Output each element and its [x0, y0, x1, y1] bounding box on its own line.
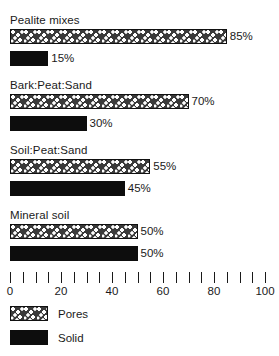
bar-row: 55%	[0, 159, 279, 175]
axis-tick	[125, 272, 126, 283]
bar-row: 50%	[0, 224, 279, 240]
bar-group: Pealite mixes85%15%	[0, 14, 279, 70]
bar-pores	[10, 94, 189, 109]
bar-solid	[10, 246, 138, 261]
axis-tick	[252, 272, 253, 283]
group-label: Soil:Peat:Sand	[10, 144, 87, 157]
bar-row: 50%	[0, 246, 279, 262]
bar-solid	[10, 181, 125, 196]
legend-label: Solid	[58, 329, 84, 347]
bar-row: 85%	[0, 29, 279, 45]
axis-tick	[265, 272, 266, 283]
x-axis: 020406080100	[0, 272, 279, 302]
axis-tick-label: 100	[255, 285, 274, 298]
bar-value-label: 85%	[230, 28, 253, 44]
bar-value-label: 55%	[153, 158, 176, 174]
bar-group: Bark:Peat:Sand70%30%	[0, 79, 279, 135]
bar-value-label: 45%	[128, 180, 151, 196]
bar-pores	[10, 224, 138, 239]
axis-tick	[214, 272, 215, 283]
axis-tick-label: 20	[55, 285, 68, 298]
bar-solid	[10, 51, 48, 66]
axis-tick	[74, 272, 75, 283]
bar-solid	[10, 116, 87, 131]
axis-tick	[150, 272, 151, 283]
axis-tick	[48, 272, 49, 283]
legend-label: Pores	[58, 305, 88, 323]
bar-value-label: 15%	[51, 50, 74, 66]
bar-value-label: 50%	[141, 223, 164, 239]
bar-group: Soil:Peat:Sand55%45%	[0, 144, 279, 200]
axis-tick	[61, 272, 62, 283]
chart-legend: PoresSolid	[0, 305, 279, 355]
axis-tick	[176, 272, 177, 283]
legend-swatch-pores	[10, 306, 48, 321]
bar-value-label: 50%	[141, 245, 164, 261]
bar-row: 30%	[0, 116, 279, 132]
axis-tick	[23, 272, 24, 283]
axis-tick	[240, 272, 241, 283]
group-label: Pealite mixes	[10, 14, 80, 27]
bar-value-label: 70%	[192, 93, 215, 109]
group-label: Bark:Peat:Sand	[10, 79, 92, 92]
axis-tick	[112, 272, 113, 283]
axis-tick	[189, 272, 190, 283]
axis-tick	[201, 272, 202, 283]
bar-group: Mineral soil50%50%	[0, 209, 279, 265]
bar-row: 70%	[0, 94, 279, 110]
bar-row: 15%	[0, 51, 279, 67]
axis-tick-label: 40	[106, 285, 119, 298]
axis-tick	[227, 272, 228, 283]
legend-swatch-solid	[10, 330, 48, 345]
axis-tick	[10, 272, 11, 283]
bar-pores	[10, 29, 227, 44]
axis-tick-label: 60	[157, 285, 170, 298]
porosity-bar-chart: Pealite mixes85%15%Bark:Peat:Sand70%30%S…	[0, 0, 279, 356]
axis-tick	[163, 272, 164, 283]
axis-tick-label: 80	[208, 285, 221, 298]
group-label: Mineral soil	[10, 209, 69, 222]
bar-value-label: 30%	[90, 115, 113, 131]
bar-pores	[10, 159, 150, 174]
axis-tick-label: 0	[7, 285, 13, 298]
axis-tick	[138, 272, 139, 283]
bar-row: 45%	[0, 181, 279, 197]
axis-tick	[99, 272, 100, 283]
axis-tick	[36, 272, 37, 283]
axis-tick	[87, 272, 88, 283]
